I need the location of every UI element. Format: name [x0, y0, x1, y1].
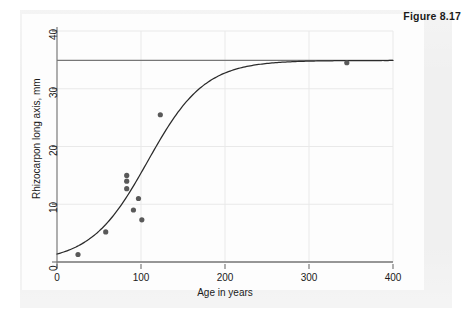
data-point — [103, 229, 108, 234]
tick-marks — [52, 31, 393, 269]
data-points — [75, 60, 349, 257]
x-axis-title: Age in years — [165, 287, 285, 298]
screenshot-root: Figure 8.17 010203040 0100200300400 Rhiz… — [0, 0, 471, 322]
x-tick-label: 400 — [373, 272, 413, 283]
y-axis-title: Rhizocarpon long axis, mm — [31, 78, 42, 199]
data-point — [124, 179, 129, 184]
x-tick-label: 0 — [37, 272, 77, 283]
y-tick-label: 40 — [48, 29, 59, 40]
data-point — [139, 217, 144, 222]
x-tick-label: 200 — [205, 272, 245, 283]
y-tick-label: 30 — [48, 87, 59, 98]
data-point — [124, 173, 129, 178]
y-tick-label: 0 — [48, 265, 59, 271]
y-tick-label: 20 — [48, 144, 59, 155]
data-point — [124, 186, 129, 191]
data-point — [158, 112, 163, 117]
x-tick-label: 300 — [289, 272, 329, 283]
data-point — [131, 207, 136, 212]
gridlines — [57, 31, 393, 262]
data-point — [136, 196, 141, 201]
data-point — [75, 252, 80, 257]
y-tick-label: 10 — [48, 202, 59, 213]
x-tick-label: 100 — [121, 272, 161, 283]
data-point — [344, 60, 349, 65]
